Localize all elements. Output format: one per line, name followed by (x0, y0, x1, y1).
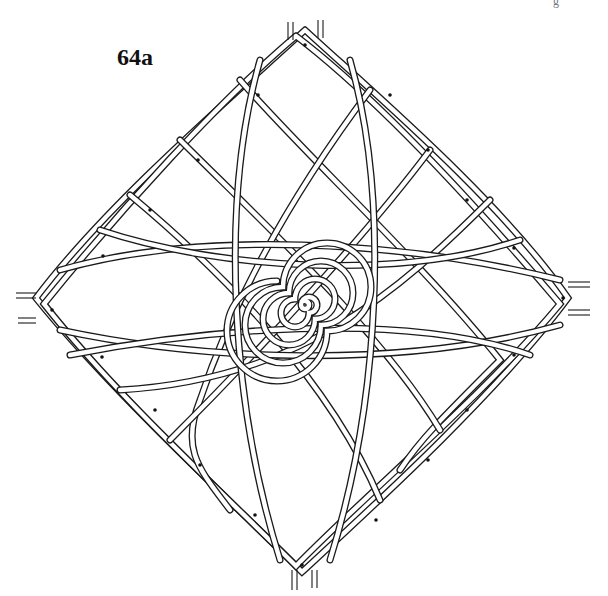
strands (36, 30, 568, 572)
weave-diagram (0, 0, 608, 596)
